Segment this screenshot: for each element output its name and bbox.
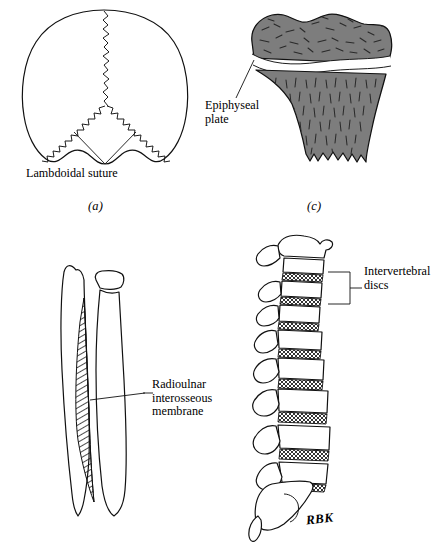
label-epiphyseal-plate: Epiphyseal plate — [205, 99, 259, 126]
bracket-intervertebral-discs — [328, 272, 350, 304]
label-epiphyseal-plate-line1: Epiphyseal — [205, 98, 259, 112]
intervertebral-disc — [279, 449, 329, 461]
caption-panel-c: (c) — [307, 199, 321, 214]
intervertebral-disc — [278, 349, 321, 359]
panel-epiphysis — [230, 4, 410, 184]
label-epiphyseal-plate-line2: plate — [205, 112, 229, 126]
panel-skull: Lambdoidal suture — [8, 4, 204, 184]
skull-drawing — [8, 4, 204, 184]
artist-signature: RBK — [305, 510, 334, 529]
leader-epiphyseal-plate — [236, 60, 254, 98]
label-radioulnar-membrane-line3: membrane — [152, 404, 203, 418]
label-radioulnar-membrane-line1: Radioulnar — [152, 377, 206, 391]
label-intervertebral-discs: Intervertebral discs — [364, 265, 430, 292]
intervertebral-disc — [278, 412, 327, 424]
label-lambdoidal-suture: Lambdoidal suture — [26, 167, 118, 181]
epiphysis-drawing — [230, 4, 410, 184]
intervertebral-disc — [278, 379, 323, 390]
intervertebral-disc — [278, 322, 319, 331]
label-intervertebral-discs-line1: Intervertebral — [364, 264, 430, 278]
intervertebral-disc — [280, 297, 321, 306]
label-radioulnar-membrane-line2: interosseous — [152, 391, 212, 405]
label-intervertebral-discs-line2: discs — [364, 278, 388, 292]
anatomy-figure: Lambdoidal suture (a) — [0, 0, 436, 549]
label-radioulnar-membrane: Radioulnar interosseous membrane — [152, 378, 212, 419]
caption-panel-a: (a) — [88, 199, 103, 214]
intervertebral-disc — [282, 273, 323, 282]
